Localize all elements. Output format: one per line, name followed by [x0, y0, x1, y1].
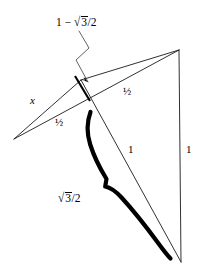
- label-one-middle: 1: [128, 144, 134, 155]
- label-half-left: ½: [55, 117, 63, 128]
- label-one-minus-sqrt3-over-2: 1 − √3/2: [56, 16, 97, 29]
- label-one-right: 1: [186, 144, 192, 155]
- label-side-x: x: [30, 95, 35, 106]
- segment-apex-to-bottom-right: [81, 80, 181, 262]
- segment-apex-to-top-right: [81, 50, 179, 80]
- segment-left-to-top-right: [14, 50, 179, 139]
- measurement-brace-icon: [88, 112, 171, 259]
- label-half-right: ½: [123, 86, 131, 97]
- geometry-figure: 1 − √3/2 x ½ ½ 1 1 √3/2: [0, 0, 203, 274]
- label-sqrt3-over-2: √3/2: [58, 192, 81, 205]
- label-brace-suffix: /2: [72, 192, 81, 204]
- radical-sign-icon: √: [74, 15, 80, 28]
- segment-top-right-to-bottom-right: [179, 50, 181, 262]
- label-top-suffix: /2: [88, 16, 97, 28]
- segment-left-to-apex: [14, 80, 81, 139]
- label-brace-radicand: 3: [65, 192, 72, 205]
- label-top-prefix: 1 −: [56, 16, 74, 28]
- radical-sign-icon-brace: √: [58, 191, 64, 204]
- leader-line: [76, 31, 89, 82]
- label-top-radicand: 3: [81, 16, 88, 29]
- figure-canvas: [0, 0, 203, 274]
